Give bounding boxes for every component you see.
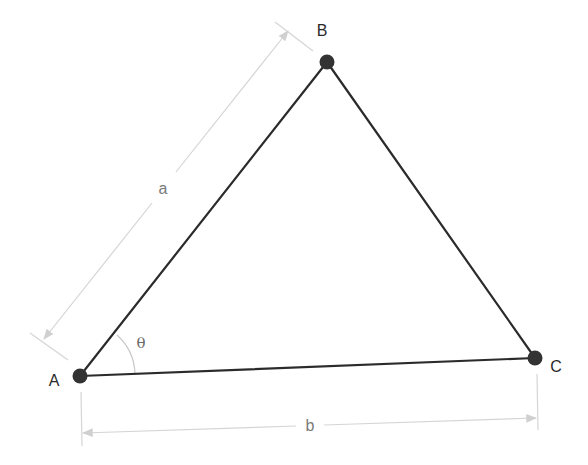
dimension-a-extension-lower: [30, 333, 68, 360]
triangle-edges: [80, 62, 535, 376]
dimension-a-label: a: [159, 180, 168, 197]
triangle-diagram: a b θ A B C: [0, 0, 588, 465]
dimension-b-extension-left: [81, 392, 82, 446]
vertex-b-label: B: [317, 22, 328, 39]
vertex-a-label: A: [49, 372, 60, 389]
dimension-b-label: b: [306, 417, 315, 434]
dimension-b-extension-right: [537, 374, 538, 430]
edge-ab: [80, 62, 327, 376]
vertex-c-dot: [528, 351, 543, 366]
angle-theta-arc: [117, 335, 135, 373]
vertex-a-dot: [73, 369, 88, 384]
dimension-a-extension-upper: [275, 22, 313, 51]
vertex-b-dot: [320, 55, 335, 70]
edge-bc: [327, 62, 535, 358]
dimension-a-line-lower: [44, 203, 152, 339]
edge-ac: [80, 358, 535, 376]
dimension-b-line-right: [324, 418, 536, 425]
dimension-a: a: [30, 22, 313, 360]
dimension-b-line-left: [83, 426, 296, 433]
dimension-b: b: [81, 374, 538, 446]
angle-theta-label: θ: [136, 334, 145, 352]
dimension-a-line-upper: [176, 31, 288, 172]
vertex-c-label: C: [550, 358, 562, 375]
